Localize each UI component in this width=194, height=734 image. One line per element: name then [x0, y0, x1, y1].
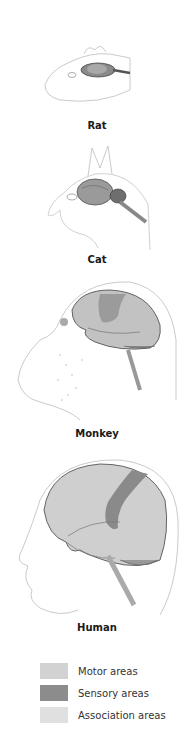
- legend-item-association: Association areas: [40, 704, 166, 726]
- rat-label: Rat: [0, 120, 194, 131]
- legend-label-motor: Motor areas: [78, 666, 138, 677]
- human-label: Human: [0, 622, 194, 633]
- legend-label-association: Association areas: [78, 710, 166, 721]
- cat-label: Cat: [0, 254, 194, 265]
- human-panel: Human: [0, 450, 194, 640]
- monkey-label: Monkey: [0, 428, 194, 439]
- legend-item-sensory: Sensory areas: [40, 682, 166, 704]
- monkey-stubble: [57, 354, 83, 401]
- sensory-swatch: [40, 685, 68, 701]
- cat-head-illustration: [0, 140, 194, 260]
- association-swatch: [40, 707, 68, 723]
- legend-label-sensory: Sensory areas: [78, 688, 149, 699]
- legend-item-motor: Motor areas: [40, 660, 166, 682]
- cat-brain-cerebellum: [110, 189, 126, 203]
- legend: Motor areas Sensory areas Association ar…: [40, 660, 166, 726]
- monkey-panel: Monkey: [0, 280, 194, 450]
- cat-panel: Cat: [0, 140, 194, 290]
- cat-brain-cerebrum: [77, 179, 113, 205]
- monkey-head-illustration: [0, 280, 194, 430]
- rat-panel: Rat: [0, 30, 194, 140]
- human-head-illustration: [0, 450, 194, 620]
- rat-head-illustration: [0, 30, 194, 110]
- motor-swatch: [40, 663, 68, 679]
- human-brain: [44, 464, 167, 566]
